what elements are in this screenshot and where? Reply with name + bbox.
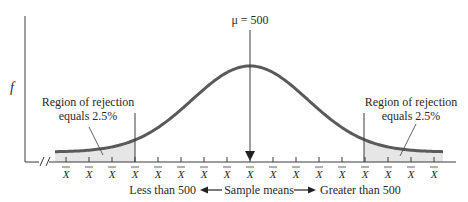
left-arrow-icon: [200, 187, 222, 194]
x-bar-tick-label: X: [223, 168, 232, 180]
x-bar-tick-label: X: [177, 168, 186, 180]
mean-label: μ = 500: [231, 13, 268, 27]
left-region-label-line2: equals 2.5%: [59, 109, 118, 123]
x-bar-tick-label: X: [62, 168, 71, 180]
sample-means-label: Sample means: [224, 183, 294, 197]
greater-than-label: Greater than 500: [320, 183, 401, 197]
x-bar-tick-label: X: [338, 168, 347, 180]
x-bar-tick-label: X: [269, 168, 278, 180]
x-bar-tick-label: X: [315, 168, 324, 180]
x-bar-tick-label: X: [108, 168, 117, 180]
x-bar-tick-label: X: [246, 168, 255, 180]
x-bar-tick-label: X: [361, 168, 370, 180]
x-bar-tick-label: X: [430, 168, 439, 180]
right-region-label-line1: Region of rejection: [365, 95, 458, 109]
x-bar-tick-label: X: [292, 168, 301, 180]
axis-break-icon: [39, 157, 50, 167]
x-bar-tick-label: X: [154, 168, 163, 180]
y-axis-label: f: [10, 80, 16, 95]
normal-distribution-diagram: f μ = 500 XXXXXXXXXXXXXXXXX Region of re…: [0, 0, 468, 202]
right-region-label-line2: equals 2.5%: [382, 109, 441, 123]
right-arrow-icon: [294, 187, 316, 194]
less-than-label: Less than 500: [129, 183, 196, 197]
x-bar-tick-label: X: [384, 168, 393, 180]
x-bar-tick-label: X: [200, 168, 209, 180]
x-bar-tick-label: X: [85, 168, 94, 180]
x-bar-tick-label: X: [407, 168, 416, 180]
left-region-label-line1: Region of rejection: [42, 95, 135, 109]
x-bar-tick-label: X: [131, 168, 140, 180]
